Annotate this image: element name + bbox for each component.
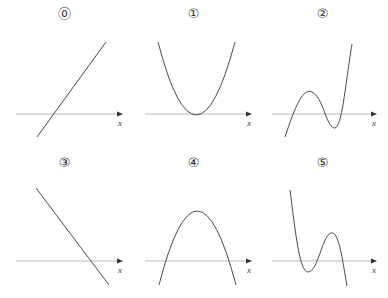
x-axis-label: x bbox=[117, 265, 122, 275]
plot-area-5: x bbox=[258, 149, 387, 298]
x-axis-arrow-icon bbox=[117, 258, 123, 263]
curve-parabola-up bbox=[158, 42, 235, 115]
curve-line-increasing bbox=[37, 42, 106, 137]
x-axis-arrow-icon bbox=[246, 111, 252, 116]
x-axis-label: x bbox=[246, 265, 251, 275]
curve-cubic-decreasing bbox=[290, 190, 347, 286]
plot-area-1: x bbox=[129, 0, 258, 149]
x-axis-arrow-icon bbox=[246, 258, 252, 263]
graph-panel-1: ① x bbox=[129, 0, 258, 149]
curve-parabola-down bbox=[159, 211, 236, 285]
plot-area-4: x bbox=[129, 149, 258, 298]
graph-panel-0: ⓪ x bbox=[0, 0, 129, 149]
graph-panel-5: ⑤ x bbox=[258, 149, 387, 298]
plot-area-0: x bbox=[0, 0, 129, 149]
x-axis-arrow-icon bbox=[371, 258, 377, 263]
x-axis-label: x bbox=[246, 118, 251, 128]
graph-figure: ⓪ x ① x ② x ③ x bbox=[0, 0, 388, 298]
plot-area-2: x bbox=[258, 0, 387, 149]
graph-panel-4: ④ x bbox=[129, 149, 258, 298]
x-axis-label: x bbox=[371, 265, 376, 275]
graph-panel-3: ③ x bbox=[0, 149, 129, 298]
graph-panel-2: ② x bbox=[258, 0, 387, 149]
plot-area-3: x bbox=[0, 149, 129, 298]
x-axis-arrow-icon bbox=[371, 111, 377, 116]
curve-cubic-increasing bbox=[285, 44, 352, 137]
x-axis-arrow-icon bbox=[117, 111, 123, 116]
x-axis-label: x bbox=[117, 118, 122, 128]
x-axis-label: x bbox=[371, 118, 376, 128]
curve-line-decreasing bbox=[36, 188, 109, 285]
